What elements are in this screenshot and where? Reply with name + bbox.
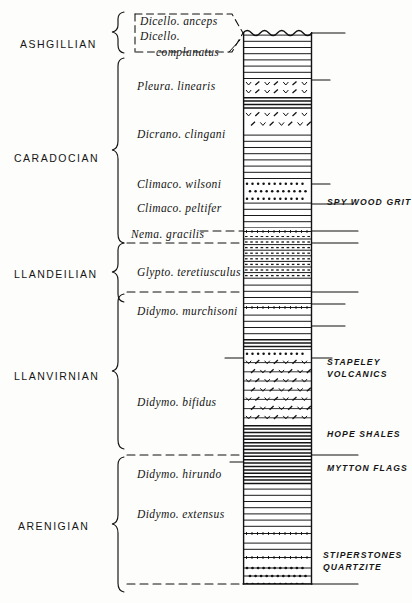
bed-tuff-band-2 [244,88,311,96]
zone-label-climaco-wilsoni: Climaco. wilsoni [137,178,221,190]
brace-caradocian [112,58,124,243]
bed-mytton-flags [244,486,311,530]
brace-ashgillian [112,12,124,53]
bed-silt-band-4 [244,554,311,564]
zone-label-didymo-hirundo: Didymo. hirundo [137,468,222,480]
lithology-column [243,32,312,584]
bed-dark-shale-1 [244,96,311,110]
zone-label-dicello-anceps: Dicello. anceps [140,15,218,27]
series-label-ashgillian: ASHGILLIAN [20,38,97,50]
zone-label-dicrano-clingani: Dicrano. clingani [137,128,226,140]
zone-label-glypto-teretiusculus: Glypto. teretiusculus [137,266,241,278]
series-label-arenigian: ARENIGIAN [18,520,89,532]
zone-label-didymo-extensus: Didymo. extensus [137,508,225,520]
zone-label-dicello-complanatus: Dicello.complanatus [140,29,219,60]
formation-label-stapeley-volcanics: STAPELEY VOLCANICS [327,356,388,381]
bed-murchisoni-shale [244,282,311,304]
bed-silt-band-2 [244,304,311,312]
zone-label-didymo-bifidus: Didymo. bifidus [137,396,216,408]
formation-label-spy-wood-grit: SPY WOOD GRIT [327,196,411,208]
bed-peltifer-shale [244,200,311,228]
bed-spy-wood-grit [244,180,311,200]
series-label-llanvirnian: LLANVIRNIAN [14,370,99,382]
bed-wilsoni-shale [244,132,311,180]
bed-stiperstones-quartzite [244,564,311,584]
zone-label-climaco-peltifer: Climaco. peltifer [137,202,222,214]
formation-label-hope-shales: HOPE SHALES [327,428,401,440]
bed-silt-band-1 [244,228,311,236]
stratigraphic-figure: ASHGILLIANCARADOCIANLLANDEILIANLLANVIRNI… [0,0,412,603]
bed-shale-band-2 [244,540,311,554]
bed-dark-shale-2 [244,338,311,350]
bed-stapeley-volcanics [244,358,311,424]
bed-hope-shales [244,424,311,486]
formation-label-stiperstones-quartzite: STIPERSTONES QUARTZITE [323,549,402,574]
brace-llandeilian [112,243,124,302]
series-label-caradocian: CARADOCIAN [14,152,99,164]
bed-coarse-tuff [244,110,311,132]
bed-silt-band-3 [244,530,311,540]
bed-teretiusculus-flags [244,236,311,282]
series-label-llandeilian: LLANDEILIAN [14,268,98,280]
brace-llanvirnian [112,294,124,449]
bed-ashgillian-shale [244,32,311,80]
formation-label-mytton-flags: MYTTON FLAGS [327,462,408,474]
zone-label-pleura-linearis: Pleura. linearis [137,80,216,92]
brace-arenigian [112,457,124,592]
bed-grit-band [244,350,311,358]
zone-label-nema-gracilis: Nema. gracilis [131,228,204,240]
zone-label-didymo-murchisoni: Didymo. murchisoni [137,305,238,317]
bed-tuff-band-1 [244,80,311,88]
bed-shale-band [244,312,311,338]
